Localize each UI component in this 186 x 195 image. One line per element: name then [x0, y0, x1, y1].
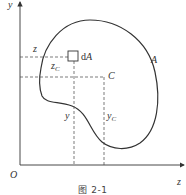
- centroid-diagram: y z O A C dA z zC y yC 图 2-1: [0, 0, 186, 195]
- dA-label: dA: [81, 52, 92, 62]
- y-coordinate-label: y: [65, 111, 69, 121]
- figure-caption: 图 2-1: [0, 183, 186, 195]
- diagram-graphics: [0, 0, 186, 195]
- centroid-label: C: [108, 71, 115, 81]
- origin-label: O: [10, 170, 17, 180]
- dA-A: A: [86, 51, 92, 62]
- z-coordinate-label: z: [33, 44, 37, 54]
- region-boundary-curve: [40, 20, 158, 149]
- vertical-axis-label: y: [8, 0, 12, 10]
- region-label: A: [151, 55, 157, 65]
- yc-sub: C: [111, 115, 116, 123]
- zc-sub: C: [55, 65, 60, 73]
- yc-coordinate-label: yC: [107, 111, 116, 123]
- dA-element-box: [68, 51, 78, 61]
- zc-coordinate-label: zC: [51, 61, 60, 73]
